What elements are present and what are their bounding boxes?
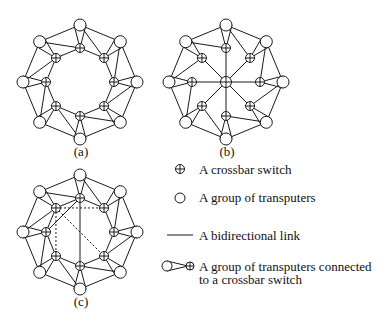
diagram-a-outer-link xyxy=(40,25,80,42)
diagram-c-outer-link xyxy=(23,232,40,272)
diagram-b-transputer-group xyxy=(277,76,289,88)
caption-b: (b) xyxy=(219,145,234,158)
diagram-a-transputer-group xyxy=(114,36,126,48)
diagram-b-transputer-group xyxy=(180,116,192,128)
diagram-a-transputer-group xyxy=(34,36,46,48)
diagram-b-transputer-group xyxy=(260,36,272,48)
diagram-a-outer-link xyxy=(120,42,137,82)
diagram-b-outer-link xyxy=(226,122,266,139)
caption-a: (a) xyxy=(74,145,88,158)
legend-connected-group-label-line2: to a crossbar switch xyxy=(199,273,302,286)
diagram-a-outer-link xyxy=(23,82,40,122)
caption-c: (c) xyxy=(74,295,88,308)
diagram-c-outer-link xyxy=(40,175,80,192)
diagram-b-outer-link xyxy=(169,82,186,122)
diagram-a-transputer-group xyxy=(74,19,86,31)
diagram-a-transputer-group xyxy=(114,116,126,128)
diagram-a-outer-link xyxy=(80,122,120,139)
diagram-c-outer-link xyxy=(80,272,120,289)
legend-bidirectional-link-label: A bidirectional link xyxy=(199,229,300,242)
diagram-c-transputer-group xyxy=(17,226,29,238)
legend-transputer-group-icon xyxy=(175,193,185,203)
diagram-b-transputer-group xyxy=(180,36,192,48)
diagram-c-outer-link xyxy=(120,192,137,232)
diagram-c-transputer-group xyxy=(34,266,46,278)
diagram-c-transputer-group xyxy=(34,186,46,198)
legend-connected-group-node-icon xyxy=(162,261,172,271)
diagram-a-transputer-group xyxy=(131,76,143,88)
diagram-b-transputer-group xyxy=(260,116,272,128)
diagram-b-outer-link xyxy=(186,25,226,42)
diagram-c-transputer-group xyxy=(114,266,126,278)
diagram-b-transputer-group xyxy=(220,19,232,31)
diagram-a-transputer-group xyxy=(34,116,46,128)
diagram-b-transputer-group xyxy=(163,76,175,88)
legend-crossbar-switch-label: A crossbar switch xyxy=(199,163,291,176)
diagram-c-transputer-group xyxy=(114,186,126,198)
diagram-c-transputer-group xyxy=(74,169,86,181)
diagram-c-transputer-group xyxy=(131,226,143,238)
diagram-a-transputer-group xyxy=(17,76,29,88)
legend-transputer-group-label: A group of transputers xyxy=(199,191,316,204)
diagram-b-outer-link xyxy=(266,42,283,82)
